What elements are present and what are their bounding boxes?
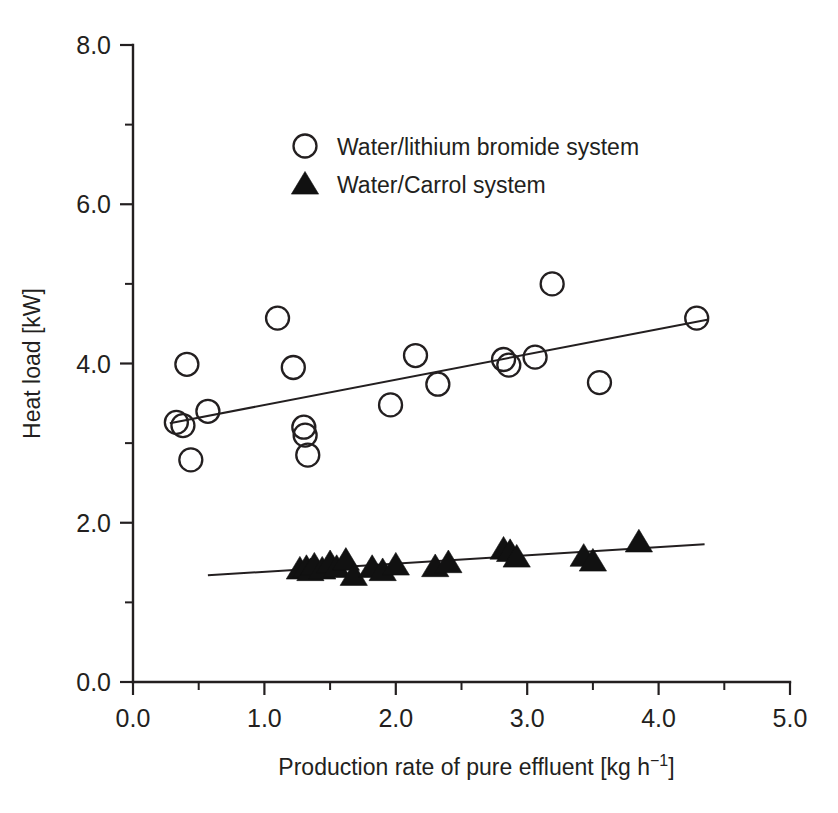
data-point-triangle (625, 529, 652, 552)
data-point-circle (379, 393, 402, 416)
x-tick-label: 3.0 (510, 704, 545, 732)
y-tick-label: 2.0 (76, 509, 111, 537)
legend-marker-triangle (291, 171, 318, 194)
legend-marker-circle (294, 135, 317, 158)
x-tick-label: 1.0 (247, 704, 282, 732)
figure-container: 0.02.04.06.08.00.01.02.03.04.05.0 Water/… (0, 0, 838, 813)
legend-label: Water/lithium bromide system (337, 134, 639, 160)
y-tick-label: 0.0 (76, 668, 111, 696)
scatter-plot: 0.02.04.06.08.00.01.02.03.04.05.0 Water/… (0, 0, 838, 813)
x-axis-title-main: Production rate of pure effluent [kg h (278, 754, 650, 780)
data-point-circle (524, 346, 547, 369)
data-point-circle (171, 414, 194, 437)
data-points (165, 272, 708, 585)
y-axis-title: Heat load [kW] (19, 288, 45, 439)
x-tick-label: 0.0 (116, 704, 151, 732)
x-tick-label: 4.0 (641, 704, 676, 732)
data-point-circle (426, 373, 449, 396)
data-point-circle (175, 353, 198, 376)
x-axis-title-tail: ] (668, 754, 674, 780)
y-tick-label: 6.0 (76, 190, 111, 218)
legend: Water/lithium bromide systemWater/Carrol… (291, 134, 639, 198)
data-point-circle (404, 344, 427, 367)
data-point-circle (282, 356, 305, 379)
legend-label: Water/Carrol system (337, 172, 546, 198)
y-tick-label: 8.0 (76, 31, 111, 59)
trend-lines (170, 320, 707, 576)
series-circles (165, 272, 708, 471)
x-axis-title-superscript: −1 (650, 752, 668, 769)
data-point-circle (196, 400, 219, 423)
data-point-circle (685, 307, 708, 330)
x-tick-label: 5.0 (773, 704, 808, 732)
trend-line (170, 320, 707, 424)
data-point-circle (179, 448, 202, 471)
x-axis-title: Production rate of pure effluent [kg h−1… (278, 752, 674, 780)
data-point-circle (266, 307, 289, 330)
x-tick-label: 2.0 (378, 704, 413, 732)
series-triangles (286, 529, 652, 585)
y-tick-label: 4.0 (76, 350, 111, 378)
data-point-circle (588, 371, 611, 394)
data-point-circle (541, 272, 564, 295)
